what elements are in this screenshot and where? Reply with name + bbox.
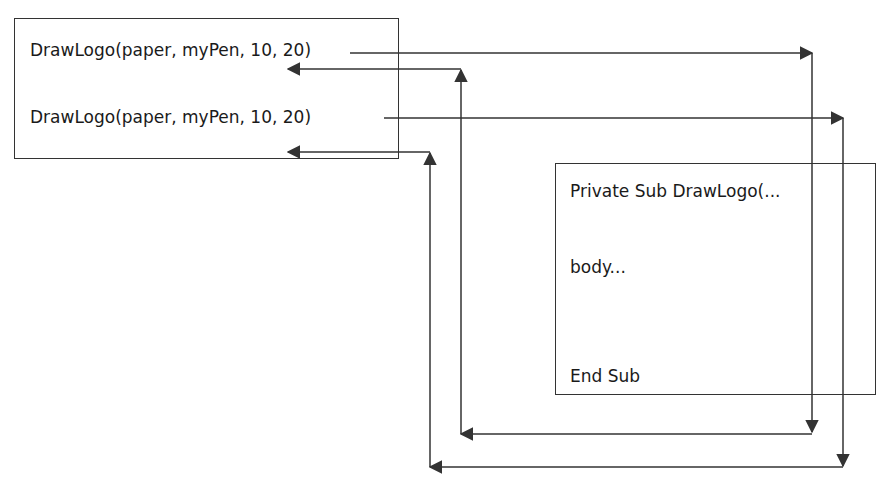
procedure-body-text: body... xyxy=(570,257,626,277)
procedure-footer-text: End Sub xyxy=(570,366,640,386)
call-2-text: DrawLogo(paper, myPen, 10, 20) xyxy=(30,107,311,127)
call-1-text: DrawLogo(paper, myPen, 10, 20) xyxy=(30,40,311,60)
procedure-header-text: Private Sub DrawLogo(... xyxy=(570,181,780,201)
